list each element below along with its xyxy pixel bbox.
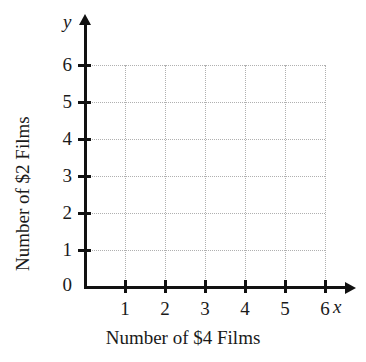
x-axis-tick xyxy=(164,280,167,293)
x-axis-tick-label: 2 xyxy=(153,299,177,318)
gridline-vertical xyxy=(205,65,206,287)
y-axis-tick xyxy=(78,249,91,252)
y-axis-tick-label: 5 xyxy=(48,92,72,111)
y-axis-tick-label: 3 xyxy=(48,166,72,185)
gridline-vertical xyxy=(125,65,126,287)
x-axis-variable-label: x xyxy=(333,297,341,316)
y-axis-title: Number of $2 Films xyxy=(12,116,34,271)
coordinate-grid-chart: 123456123456 0 x y Number of $4 Films Nu… xyxy=(0,0,366,362)
y-axis-tick xyxy=(78,64,91,67)
y-axis-tick xyxy=(78,101,91,104)
origin-label: 0 xyxy=(48,275,72,294)
x-axis-tick-label: 4 xyxy=(233,299,257,318)
y-axis-variable-label: y xyxy=(63,12,71,31)
x-axis-tick-label: 3 xyxy=(193,299,217,318)
x-axis-tick xyxy=(244,280,247,293)
x-axis-arrowhead-icon xyxy=(345,282,356,294)
x-axis-title: Number of $4 Films xyxy=(0,327,366,349)
y-axis-arrowhead-icon xyxy=(79,14,91,25)
y-axis-tick xyxy=(78,212,91,215)
gridline-vertical xyxy=(165,65,166,287)
y-axis-tick-label: 4 xyxy=(48,129,72,148)
x-axis-tick-label: 5 xyxy=(273,299,297,318)
x-axis-tick xyxy=(284,280,287,293)
gridline-vertical xyxy=(245,65,246,287)
y-axis-tick xyxy=(78,138,91,141)
x-axis-tick xyxy=(204,280,207,293)
gridline-vertical xyxy=(325,65,326,287)
x-axis-tick-label: 1 xyxy=(113,299,137,318)
gridline-vertical xyxy=(285,65,286,287)
x-axis-tick xyxy=(324,280,327,293)
y-axis-tick-label: 6 xyxy=(48,55,72,74)
x-axis-tick xyxy=(124,280,127,293)
y-axis-tick xyxy=(78,175,91,178)
y-axis-tick-label: 1 xyxy=(48,240,72,259)
y-axis-tick-label: 2 xyxy=(48,203,72,222)
